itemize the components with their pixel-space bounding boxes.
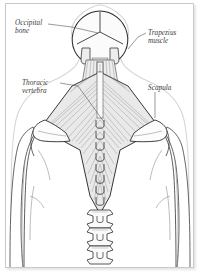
label-scapula: Scapula [148,84,172,92]
label-thoracic-vertebra: Thoracic vertebra [22,79,48,96]
skull [72,11,128,64]
anatomical-illustration: Occipital bone Trapezius muscle Thoracic… [0,0,200,280]
leader-trapezius [128,33,146,49]
label-occipital-bone: Occipital bone [15,19,42,36]
label-trapezius-muscle: Trapezius muscle [148,29,176,46]
